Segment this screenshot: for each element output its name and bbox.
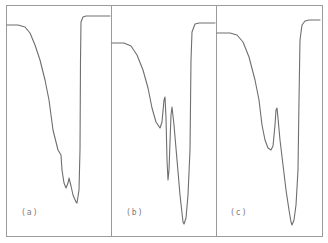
trace-panel-b — [112, 23, 215, 224]
trace-panel-a — [7, 16, 110, 203]
figure-three-panel-traces: (a) (b) (c) — [0, 0, 328, 243]
panel-label-a: (a) — [21, 208, 38, 217]
panel-label-b: (b) — [126, 208, 143, 217]
panel-label-c: (c) — [230, 208, 247, 217]
trace-panel-c — [217, 20, 320, 225]
chart-canvas — [0, 0, 328, 243]
